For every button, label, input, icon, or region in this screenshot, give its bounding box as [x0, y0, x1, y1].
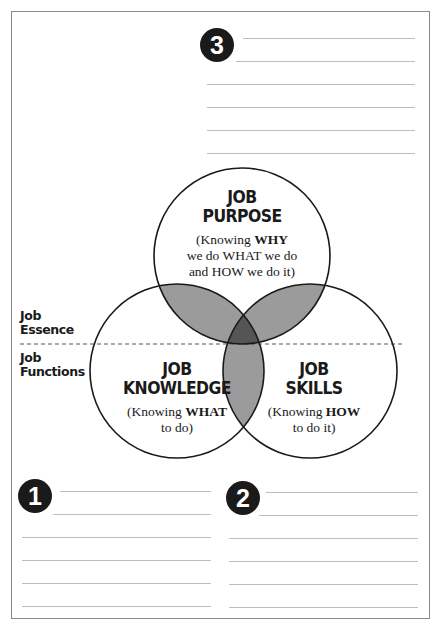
desc-text: we do WHAT we do [187, 248, 298, 263]
writing-line[interactable] [266, 492, 418, 493]
label-line: Job [20, 308, 41, 323]
section-number-badge-1: 1 [18, 479, 52, 513]
job-purpose-title-1: JOB [168, 188, 315, 207]
job-knowledge-title-2: KNOWLEDGE [103, 379, 250, 398]
writing-line[interactable] [22, 560, 211, 561]
desc-text: (Knowing [196, 232, 254, 247]
writing-line[interactable] [22, 606, 211, 607]
label-line: Job [20, 350, 41, 365]
writing-line[interactable] [60, 491, 211, 492]
job-skills-title-1: JOB [250, 360, 379, 379]
desc-text: and HOW we do it) [189, 264, 295, 279]
label-job-functions: Job Functions [20, 351, 85, 379]
desc-text: to do) [161, 420, 193, 435]
job-purpose-description: (Knowing WHY we do WHAT we do and HOW we… [162, 232, 322, 280]
writing-line[interactable] [229, 607, 418, 608]
section-number-badge-2: 2 [226, 481, 260, 515]
job-knowledge-title-1: JOB [103, 360, 250, 379]
job-knowledge-description: (Knowing WHAT to do) [97, 404, 257, 436]
label-line: Essence [20, 322, 74, 337]
writing-line[interactable] [229, 538, 418, 539]
job-purpose-title-2: PURPOSE [168, 207, 315, 226]
desc-text: (Knowing [268, 404, 326, 419]
writing-line[interactable] [22, 583, 211, 584]
label-line: Functions [20, 364, 85, 379]
job-skills-title-2: SKILLS [250, 379, 379, 398]
writing-line[interactable] [229, 584, 418, 585]
job-knowledge-text: JOB KNOWLEDGE (Knowing WHAT to do) [97, 360, 257, 436]
desc-emphasis: WHAT [185, 404, 227, 419]
job-purpose-text: JOB PURPOSE (Knowing WHY we do WHAT we d… [162, 188, 322, 280]
desc-emphasis: HOW [326, 404, 361, 419]
desc-text: to do it) [293, 420, 336, 435]
desc-emphasis: WHY [254, 232, 288, 247]
job-skills-text: JOB SKILLS (Knowing HOW to do it) [244, 360, 384, 436]
job-skills-description: (Knowing HOW to do it) [244, 404, 384, 436]
writing-line[interactable] [22, 537, 211, 538]
desc-text: (Knowing [127, 404, 185, 419]
writing-line[interactable] [229, 561, 418, 562]
label-job-essence: Job Essence [20, 309, 74, 337]
writing-line[interactable] [259, 515, 418, 516]
writing-line[interactable] [53, 514, 211, 515]
